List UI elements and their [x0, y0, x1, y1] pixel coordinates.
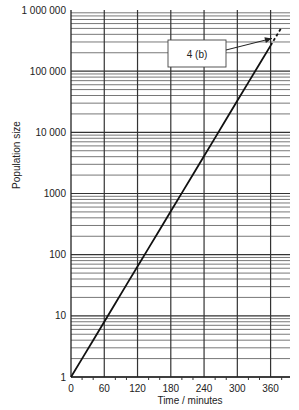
- x-tick-label: 240: [196, 383, 213, 394]
- x-axis-title: Time / minutes: [157, 395, 222, 406]
- y-axis-title: Population size: [11, 121, 22, 189]
- x-tick-label: 360: [262, 383, 279, 394]
- y-tick-label: 1: [60, 372, 66, 383]
- x-tick-label: 60: [99, 383, 111, 394]
- x-tick-labels: 060120180240300360: [68, 383, 279, 394]
- chart: 110100100010 000100 0001 000 000 0601201…: [0, 0, 299, 410]
- y-tick-label: 1000: [44, 188, 67, 199]
- series: [71, 27, 282, 377]
- x-tick-label: 120: [129, 383, 146, 394]
- y-tick-label: 100 000: [30, 66, 67, 77]
- y-tick-label: 100: [49, 249, 66, 260]
- y-tick-label: 1 000 000: [22, 5, 67, 16]
- y-tick-label: 10: [55, 310, 67, 321]
- x-tick-label: 0: [68, 383, 74, 394]
- annotation-arrow-line: [226, 38, 272, 50]
- series-line-extrapolation: [271, 27, 282, 45]
- x-tick-label: 300: [229, 383, 246, 394]
- x-tick-label: 180: [162, 383, 179, 394]
- y-tick-label: 10 000: [35, 127, 66, 138]
- annotation-label: 4 (b): [187, 49, 208, 60]
- y-tick-labels: 110100100010 000100 0001 000 000: [22, 5, 67, 383]
